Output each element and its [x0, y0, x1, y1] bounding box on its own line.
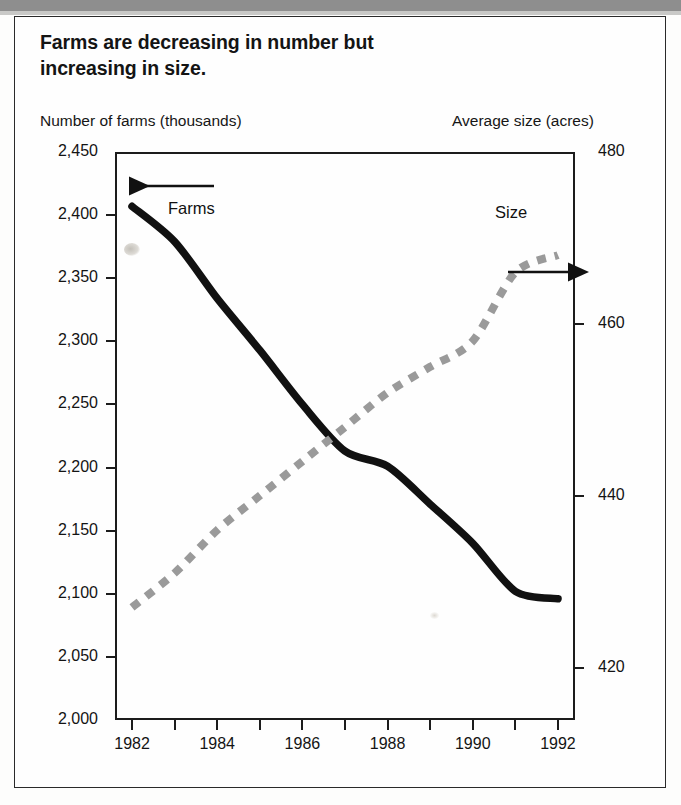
figure-page: Farms are decreasing in number but incre… — [0, 0, 681, 805]
series-label-size: Size — [495, 203, 527, 222]
series-label-farms: Farms — [168, 199, 215, 218]
series-line-farms — [132, 206, 558, 599]
series-layer — [0, 0, 681, 805]
series-line-size — [132, 255, 558, 607]
